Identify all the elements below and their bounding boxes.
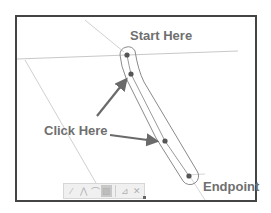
cancel-tool-button[interactable]: ✕	[131, 185, 142, 197]
arc-tool-button[interactable]: ⌒	[90, 185, 101, 197]
start-point-handle[interactable]	[124, 52, 129, 57]
start-here-label: Start Here	[130, 29, 192, 42]
polyline-icon: ⋀	[80, 186, 87, 196]
cancel-icon: ✕	[133, 186, 141, 196]
arrow-to-click-point-1	[97, 81, 125, 116]
arrow-to-click-point-2	[110, 135, 155, 141]
close-shape-tool-button[interactable]: ⊿	[119, 185, 130, 197]
sketch-toolbar: ⁄ ⋀ ⌒ ▨ ⊿ ✕	[63, 183, 145, 199]
spline-selection-outline	[120, 47, 199, 185]
toolbar-resize-grip[interactable]	[143, 196, 146, 199]
toolbar-separator	[115, 185, 116, 197]
left-diagonal-guide-line	[25, 60, 96, 183]
spline-tool-button[interactable]: ▨	[101, 185, 112, 197]
spline-icon: ▨	[102, 186, 111, 196]
click-point-2-handle[interactable]	[162, 138, 167, 143]
line-icon: ⁄	[71, 186, 73, 196]
endpoint-label: Endpoint	[203, 180, 259, 193]
polyline-tool-button[interactable]: ⋀	[78, 185, 89, 197]
end-point-handle[interactable]	[186, 173, 191, 178]
click-here-label: Click Here	[44, 124, 108, 137]
close-shape-icon: ⊿	[121, 186, 129, 196]
arc-icon: ⌒	[91, 185, 100, 198]
spline-curve[interactable]	[127, 55, 189, 176]
line-tool-button[interactable]: ⁄	[66, 185, 77, 197]
click-point-1-handle[interactable]	[128, 71, 133, 76]
upper-diagonal-guide-line	[85, 20, 124, 52]
